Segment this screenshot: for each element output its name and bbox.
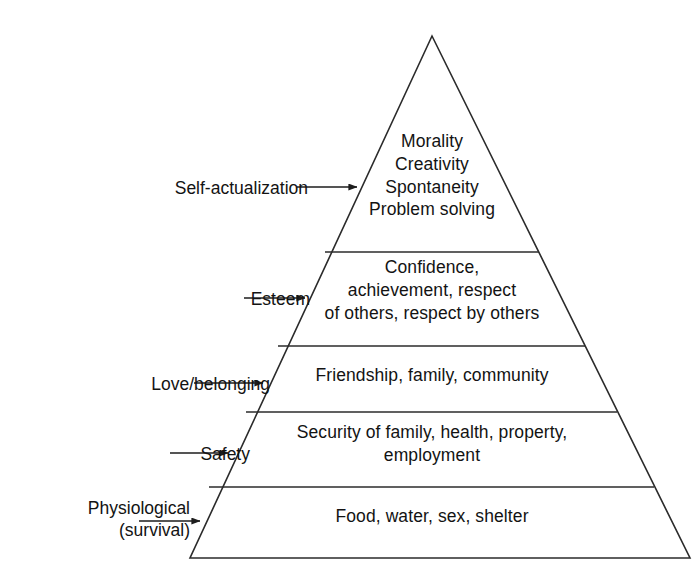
tier-label-physiological: Physiological (survival) <box>0 497 190 541</box>
tier-content-physiological: Food, water, sex, shelter <box>222 505 642 528</box>
tier-label-safety: Safety <box>40 443 250 465</box>
tier-label-esteem: Esteem <box>60 288 310 310</box>
maslow-pyramid-diagram: Morality Creativity Spontaneity Problem … <box>0 0 698 586</box>
tier-content-love-belonging: Friendship, family, community <box>262 364 602 387</box>
tier-label-love-belonging: Love/belonging <box>20 373 270 395</box>
tier-label-self-actualization: Self-actualization <box>18 177 308 199</box>
tier-content-esteem: Confidence, achievement, respect of othe… <box>272 256 592 324</box>
tier-content-safety: Security of family, health, property, em… <box>242 421 622 467</box>
tier-content-self-actualization: Morality Creativity Spontaneity Problem … <box>282 130 582 221</box>
